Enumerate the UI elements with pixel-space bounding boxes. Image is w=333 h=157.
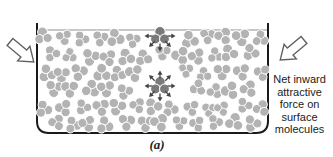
molecule [213, 64, 231, 80]
molecule [181, 98, 200, 118]
molecule [75, 31, 90, 47]
side-label-line: surface [266, 111, 333, 124]
molecule [54, 99, 71, 117]
side-label-line: force on [266, 98, 333, 111]
molecule [77, 114, 99, 135]
molecule [96, 80, 116, 99]
molecule [53, 67, 71, 84]
molecule [36, 99, 55, 119]
big-inward-arrow-right-icon [274, 33, 310, 67]
surface-tension-figure: Net inward attractive force on surface m… [0, 0, 333, 157]
molecule [208, 114, 224, 131]
molecule [230, 61, 250, 82]
side-label-line: attractive [266, 86, 333, 99]
molecule [151, 27, 170, 44]
molecule [61, 46, 81, 66]
molecule [41, 42, 63, 63]
figure-caption: (a) [133, 137, 181, 153]
side-label-line: Net inward [266, 73, 333, 86]
molecule [55, 29, 74, 47]
side-label: Net inward attractive force on surface m… [266, 73, 333, 136]
force-arrow-icon [158, 94, 163, 102]
molecule [187, 114, 204, 132]
molecule [115, 46, 137, 67]
molecule [170, 46, 188, 65]
side-label-line: molecules [266, 123, 333, 136]
molecule [133, 47, 153, 66]
molecule [171, 116, 188, 132]
molecule [219, 80, 238, 100]
molecule [187, 78, 207, 99]
interior-molecule [145, 71, 176, 102]
molecule [154, 45, 172, 62]
molecule [125, 30, 144, 50]
